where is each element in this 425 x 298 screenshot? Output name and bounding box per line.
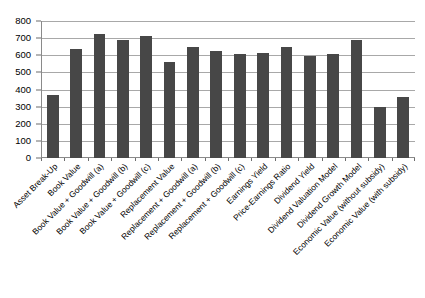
bar-chart-figure: 0100200300400500600700800 Asset Break-Up… bbox=[0, 0, 425, 298]
x-axis: Asset Break-UpBook ValueBook Value + Goo… bbox=[0, 162, 425, 298]
y-tick-label: 400 bbox=[15, 85, 31, 95]
y-tick-label: 100 bbox=[15, 136, 31, 146]
bar bbox=[47, 95, 59, 158]
y-tick-label: 500 bbox=[15, 68, 31, 78]
y-tick-label: 700 bbox=[15, 33, 31, 43]
y-tick-label: 300 bbox=[15, 102, 31, 112]
y-tick-label: 800 bbox=[15, 16, 31, 26]
x-tick-mark bbox=[41, 158, 42, 161]
y-tick-label: 600 bbox=[15, 51, 31, 61]
y-tick-label: 200 bbox=[15, 119, 31, 129]
y-axis: 0100200300400500600700800 bbox=[0, 21, 36, 158]
